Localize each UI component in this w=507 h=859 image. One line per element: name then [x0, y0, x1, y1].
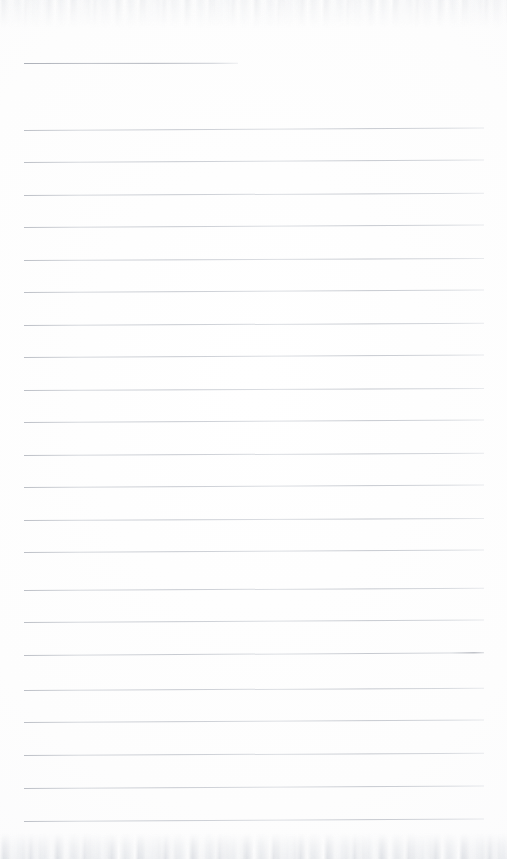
scanned-page	[0, 0, 507, 859]
ruled-line	[24, 62, 238, 64]
